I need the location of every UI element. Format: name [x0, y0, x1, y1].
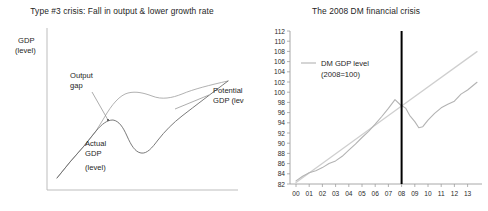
output-gap-label-line1: Output: [70, 71, 94, 80]
xtick-02: 02: [319, 190, 327, 197]
xtick-05: 05: [358, 190, 366, 197]
ytick-90: 90: [278, 140, 286, 147]
ytick-108: 108: [274, 48, 285, 55]
xtick-07: 07: [385, 190, 393, 197]
figure-container: Type #3 crisis: Fall in output & lower g…: [0, 0, 488, 211]
xtick-00: 00: [292, 190, 300, 197]
xtick-09: 09: [411, 190, 419, 197]
ytick-98: 98: [278, 99, 286, 106]
legend-label-line1: DM GDP level: [321, 59, 369, 68]
ytick-94: 94: [278, 119, 286, 126]
ytick-100: 100: [274, 89, 285, 96]
actual-gdp-label-line1: Actual: [85, 139, 106, 148]
output-gap-leader-dot: [107, 119, 109, 121]
ytick-88: 88: [278, 150, 286, 157]
left-actual-gdp-line: [57, 81, 228, 178]
xtick-06: 06: [372, 190, 380, 197]
ytick-110: 110: [274, 38, 285, 45]
xtick-01: 01: [306, 190, 314, 197]
ytick-86: 86: [278, 160, 286, 167]
actual-gdp-label-line3: (level): [85, 163, 106, 172]
xtick-13: 13: [464, 190, 472, 197]
left-y-axis-label-line2: (level): [15, 46, 36, 55]
ytick-92: 92: [278, 130, 286, 137]
legend-label-line2: (2008=100): [321, 70, 361, 79]
potential-gdp-leader-line: [175, 95, 209, 109]
xtick-03: 03: [332, 190, 340, 197]
xtick-10: 10: [424, 190, 432, 197]
right-chart-panel: The 2008 DM financial crisis: [244, 0, 488, 211]
right-chart-svg: 112 110 108 106 104 102 100 98 96 94 92 …: [244, 0, 488, 211]
potential-gdp-label-line1: Potential: [213, 86, 243, 95]
ytick-82: 82: [278, 181, 286, 188]
xtick-12: 12: [451, 190, 459, 197]
output-gap-leader-line: [92, 92, 108, 120]
left-y-axis-label-line1: GDP: [18, 36, 34, 45]
left-chart-svg: GDP (level) Output gap Actual GDP (level…: [0, 0, 244, 211]
ytick-106: 106: [274, 58, 285, 65]
xtick-11: 11: [438, 190, 445, 197]
ytick-84: 84: [278, 170, 286, 177]
ytick-112: 112: [274, 28, 285, 35]
left-potential-gdp-line: [57, 81, 228, 178]
ytick-96: 96: [278, 109, 286, 116]
ytick-102: 102: [274, 79, 285, 86]
potential-gdp-label-line2: GDP (level): [213, 96, 244, 105]
xtick-08: 08: [398, 190, 406, 197]
ytick-104: 104: [274, 68, 285, 75]
output-gap-label-line2: gap: [70, 81, 83, 90]
left-chart-panel: Type #3 crisis: Fall in output & lower g…: [0, 0, 244, 211]
xtick-04: 04: [345, 190, 353, 197]
actual-gdp-label-line2: GDP: [85, 149, 101, 158]
